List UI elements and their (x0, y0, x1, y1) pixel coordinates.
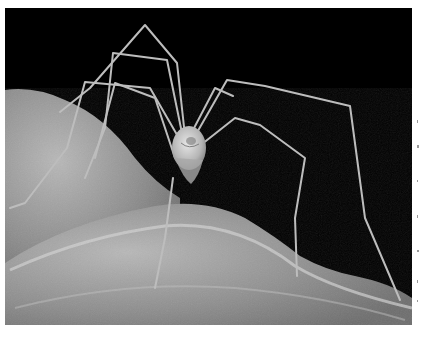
photo-illustration (5, 8, 412, 325)
harvestman-photo (5, 8, 412, 325)
image-caption (0, 330, 423, 344)
page-canvas (0, 0, 423, 348)
scan-edge-marks (416, 120, 420, 310)
